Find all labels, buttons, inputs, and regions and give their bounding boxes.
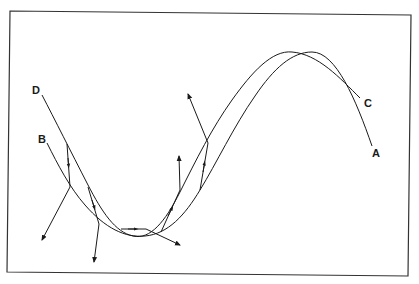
figure-frame [7,11,411,276]
vector-arrow-4 [179,156,180,190]
diagram-figure [0,0,419,284]
vector-arrow-1 [42,187,70,240]
label-a: A [372,148,380,159]
vector-arrow-3 [146,229,180,245]
curve-b-a [47,52,372,236]
label-b: B [38,134,46,145]
curve-d-c [42,52,360,237]
connector-mid-arrow-2 [92,200,95,208]
label-d: D [32,85,40,96]
label-c: C [364,98,372,109]
vector-arrow-2 [94,224,99,262]
vector-arrow-5 [188,94,208,143]
connector-mid-arrow-1 [68,158,69,166]
